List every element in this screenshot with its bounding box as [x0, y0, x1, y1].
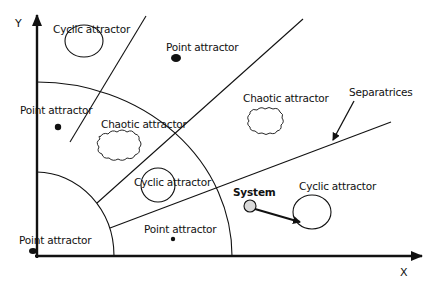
point-attractor-bottom-dot: [171, 237, 175, 241]
label-cyclic-attractor-right: Cyclic attractor: [299, 180, 377, 192]
label-point-attractor-bottom: Point attractor: [144, 223, 217, 235]
label-point-attractor-left: Point attractor: [20, 104, 93, 116]
label-cyclic-attractor-top-left: Cyclic attractor: [53, 23, 131, 35]
label-chaotic-attractor-right: Chaotic attractor: [243, 92, 330, 104]
point-attractor-origin-dot: [29, 248, 37, 254]
point-attractor-top-dot: [171, 54, 181, 62]
label-chaotic-attractor-middle: Chaotic attractor: [101, 118, 188, 130]
point-attractor-left-dot: [55, 124, 61, 130]
label-point-attractor-origin: Point attractor: [19, 234, 92, 246]
separatrices-pointer-arrow: [333, 101, 354, 140]
cyclic-attractor-right-icon: [293, 195, 331, 229]
chaotic-attractor-middle-cloud-icon: [97, 130, 141, 160]
label-cyclic-attractor-center: Cyclic attractor: [134, 176, 212, 188]
attractor-landscape-diagram: Y X Cyclic attractor Point attractor Poi…: [0, 0, 437, 287]
system-state-marker: [244, 200, 256, 212]
x-axis-label: X: [400, 266, 408, 279]
label-system: System: [233, 186, 276, 198]
chaotic-attractor-right-cloud-icon: [248, 108, 284, 135]
label-separatrices: Separatrices: [349, 86, 413, 98]
y-axis-label: Y: [14, 17, 22, 30]
label-point-attractor-top: Point attractor: [166, 41, 239, 53]
